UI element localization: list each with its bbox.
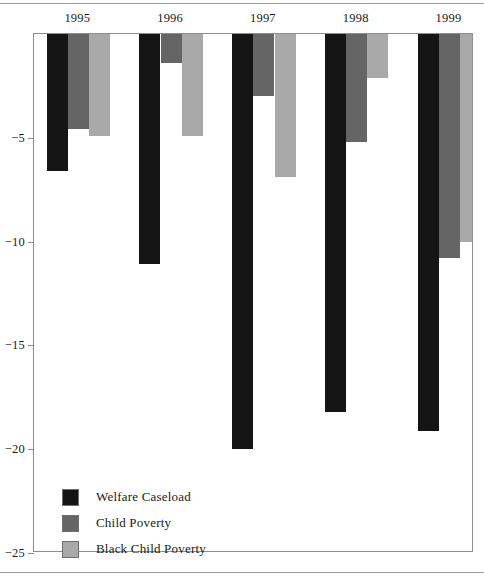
y-axis-tick-label: −10 bbox=[5, 234, 25, 249]
x-axis-label-1998: 1998 bbox=[343, 11, 369, 26]
bar-1997-welfare-caseload bbox=[232, 34, 253, 449]
x-axis-label-1997: 1997 bbox=[250, 11, 276, 26]
legend-swatch-child-poverty bbox=[62, 515, 79, 532]
x-axis-label-1999: 1999 bbox=[436, 11, 462, 26]
legend-swatch-welfare-caseload bbox=[62, 489, 79, 506]
legend-item-child-poverty: Child Poverty bbox=[62, 513, 171, 533]
legend-swatch-black-child-poverty bbox=[62, 541, 79, 558]
bar-1998-child-poverty bbox=[346, 34, 367, 142]
y-axis-tick-label: −5 bbox=[11, 130, 25, 145]
legend-label: Welfare Caseload bbox=[96, 489, 191, 505]
bar-1999-child-poverty bbox=[439, 34, 460, 258]
legend-label: Child Poverty bbox=[96, 515, 171, 531]
bar-1998-welfare-caseload bbox=[325, 34, 346, 412]
bar-1999-black-child-poverty bbox=[460, 34, 472, 242]
bar-1996-child-poverty bbox=[161, 34, 182, 63]
x-axis-label-1995: 1995 bbox=[64, 11, 90, 26]
bar-1997-child-poverty bbox=[253, 34, 274, 96]
chart-page: 19951996199719981999 −5−10−15−20−25 Welf… bbox=[0, 0, 484, 580]
bar-1998-black-child-poverty bbox=[367, 34, 388, 78]
bottom-divider-rule bbox=[0, 572, 484, 573]
top-divider-rule bbox=[0, 3, 484, 4]
legend-label: Black Child Poverty bbox=[96, 541, 206, 557]
legend-item-black-child-poverty: Black Child Poverty bbox=[62, 539, 206, 559]
bar-1995-black-child-poverty bbox=[89, 34, 110, 136]
y-axis-tick-label: −20 bbox=[5, 442, 25, 457]
bar-1996-black-child-poverty bbox=[182, 34, 203, 136]
y-axis-tick-mark bbox=[28, 553, 34, 554]
bar-1999-welfare-caseload bbox=[418, 34, 439, 431]
bar-1995-welfare-caseload bbox=[47, 34, 68, 171]
y-axis-tick-label: −25 bbox=[5, 546, 25, 561]
x-axis-label-1996: 1996 bbox=[157, 11, 183, 26]
bar-1996-welfare-caseload bbox=[139, 34, 160, 264]
y-axis-tick-label: −15 bbox=[5, 338, 25, 353]
legend-item-welfare-caseload: Welfare Caseload bbox=[62, 487, 191, 507]
plot-area bbox=[34, 34, 472, 551]
plot-frame: −5−10−15−20−25 Welfare CaseloadChild Pov… bbox=[33, 33, 473, 552]
bar-1995-child-poverty bbox=[68, 34, 89, 129]
bar-1997-black-child-poverty bbox=[275, 34, 296, 177]
